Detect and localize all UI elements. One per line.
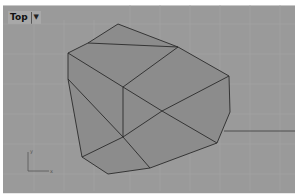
viewport-scene: y x <box>0 0 298 195</box>
axis-x-label: x <box>50 168 53 174</box>
axis-widget <box>28 152 49 171</box>
axis-y-label: y <box>30 148 33 155</box>
